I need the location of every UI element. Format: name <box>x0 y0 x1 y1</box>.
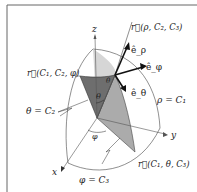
x-axis-label: x <box>52 168 57 177</box>
phi-surface-label: φ = C₃ <box>79 176 109 185</box>
phi-angle-label: φ <box>92 133 98 141</box>
x-axis <box>62 118 97 170</box>
r-phi-label: r⃗(C₁, C₂, φ) <box>27 69 79 78</box>
e-rho-arrow <box>115 45 128 75</box>
z-axis-label: z <box>92 25 97 34</box>
e-rho-label: ê_ρ <box>131 46 146 55</box>
theta-leader <box>58 100 88 116</box>
r-theta-label: r⃗(C₁, θ, C₃) <box>138 160 190 169</box>
rho-surface-label: ρ = C₁ <box>157 96 186 105</box>
e-phi-arrow <box>115 67 143 75</box>
theta-surface-label: θ = C₂ <box>26 107 55 116</box>
z-axis-arrow <box>94 34 97 39</box>
r-rho-label: r⃗(ρ, C₂, C₃) <box>131 23 182 32</box>
e-phi-label: ê_φ <box>146 63 162 72</box>
y-axis-arrow <box>163 132 168 137</box>
sphere-arc-left <box>66 49 93 163</box>
theta-angle-label: θ <box>96 93 101 101</box>
theta-angle-label-small: θ <box>106 78 110 85</box>
phi-leader <box>102 138 120 164</box>
y-axis-label: y <box>171 131 176 140</box>
e-theta-label: ê_θ <box>131 89 146 98</box>
